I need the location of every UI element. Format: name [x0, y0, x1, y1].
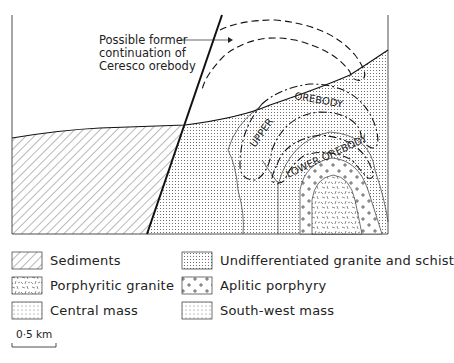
swatch-sediments	[12, 252, 42, 269]
legend-label-aplitic-porphyry: Aplitic porphyry	[220, 279, 326, 293]
legend-label-undifferentiated: Undifferentiated granite and schist	[220, 254, 454, 268]
swatch-undifferentiated	[182, 252, 212, 269]
swatch-south-west-mass	[182, 302, 212, 319]
legend-label-south-west-mass: South-west mass	[220, 304, 334, 318]
swatch-porphyritic-granite	[12, 277, 42, 294]
scale-label: 0·5 km	[16, 328, 52, 340]
legend-label-central-mass: Central mass	[50, 304, 138, 318]
swatch-central-mass	[12, 302, 42, 319]
legend-label-sediments: Sediments	[50, 254, 121, 268]
scale-bar	[12, 343, 56, 347]
swatch-aplitic-porphyry	[182, 277, 212, 294]
legend-label-porphyritic-granite: Porphyritic granite	[50, 279, 174, 293]
annotation-line-3: Ceresco orebody	[99, 60, 196, 73]
